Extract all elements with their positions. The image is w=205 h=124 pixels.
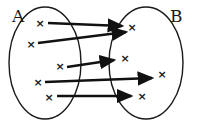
- element-cross-icon-b: ×: [137, 90, 146, 103]
- element-cross-icon-a: ×: [26, 38, 35, 51]
- mapping-arrow: [45, 78, 152, 82]
- element-cross-icon-b: ×: [127, 21, 136, 34]
- mapping-arrow: [48, 23, 122, 26]
- element-cross-icon-b: ×: [157, 68, 166, 81]
- element-cross-icon-a: ×: [55, 60, 64, 73]
- mapping-arrow: [67, 60, 114, 67]
- set-b-elements: ××××: [120, 21, 166, 103]
- element-cross-icon-a: ×: [33, 76, 42, 89]
- element-cross-icon-b: ×: [120, 52, 129, 65]
- set-label-b: B: [170, 6, 183, 26]
- set-label-a: A: [11, 6, 25, 26]
- element-cross-icon-a: ×: [35, 17, 44, 30]
- element-cross-icon-a: ×: [44, 91, 53, 104]
- set-a-elements: ×××××: [26, 17, 64, 104]
- mapping-diagram: A B ××××× ××××: [0, 0, 205, 124]
